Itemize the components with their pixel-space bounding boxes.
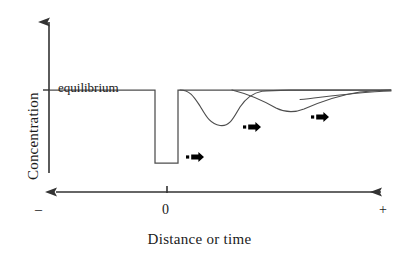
y-axis-title: Concentration [26, 0, 54, 180]
square-pulse-path [49, 90, 391, 163]
flow-arrow-2-head [248, 122, 261, 132]
x-axis-min-label: – [35, 203, 42, 217]
spread-curve-1-path [180, 90, 391, 126]
x-axis-max-label: + [379, 203, 387, 217]
flow-arrow-1-head [191, 152, 204, 162]
x-axis-group [56, 186, 381, 193]
flow-arrow-3-dot [311, 115, 314, 118]
flow-arrow-2 [243, 122, 261, 132]
flow-arrow-1 [186, 152, 204, 162]
flow-arrow-2-dot [243, 125, 246, 128]
concentration-diffusion-figure: Concentration equilibrium – 0 + Distance… [0, 0, 399, 261]
equilibrium-label: equilibrium [58, 81, 119, 94]
figure-canvas [0, 0, 399, 261]
x-axis-zero-label: 0 [162, 203, 169, 217]
flow-arrow-3-head [316, 112, 329, 122]
x-axis-title: Distance or time [0, 232, 399, 247]
flow-arrow-3 [311, 112, 329, 122]
initial-square-pulse-curve [49, 90, 391, 163]
spread-curve-1 [180, 90, 391, 126]
flow-arrow-1-dot [186, 155, 189, 158]
